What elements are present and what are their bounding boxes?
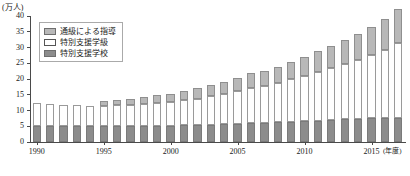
- bar-segment-1994-1: [86, 106, 94, 126]
- bar-2005: [233, 78, 241, 142]
- bar-segment-2015-1: [367, 55, 375, 118]
- bar-segment-1995-0: [100, 126, 108, 142]
- y-tick-mark: [27, 16, 31, 17]
- bar-segment-2014-0: [354, 119, 362, 142]
- bar-segment-1999-0: [153, 126, 161, 142]
- y-tick-mark: [27, 63, 31, 64]
- bar-segment-2000-0: [166, 126, 174, 142]
- bar-segment-1994-0: [86, 126, 94, 142]
- legend-item-tsukyu: 通級による指導: [44, 26, 116, 36]
- bar-segment-1998-1: [140, 104, 148, 126]
- bar-segment-1995-1: [100, 106, 108, 126]
- bar-2013: [341, 40, 349, 142]
- bar-segment-1991-1: [46, 104, 54, 126]
- bar-2000: [166, 94, 174, 143]
- x-tick-label-2000: 2000: [163, 147, 179, 156]
- bar-2007: [260, 71, 268, 142]
- bar-1996: [113, 100, 121, 142]
- y-tick-mark: [27, 142, 31, 143]
- bar-1991: [46, 104, 54, 142]
- bar-segment-2008-2: [274, 67, 282, 83]
- y-tick-mark: [27, 110, 31, 111]
- bar-segment-2003-0: [207, 125, 215, 142]
- x-tick-label-2005: 2005: [230, 147, 246, 156]
- bar-1992: [59, 105, 67, 142]
- legend-swatch-support-class: [44, 39, 56, 46]
- bar-2009: [287, 62, 295, 142]
- bar-segment-2000-2: [166, 94, 174, 103]
- bar-segment-2007-2: [260, 71, 268, 85]
- bar-segment-2001-1: [180, 100, 188, 125]
- x-axis-unit-label: (年度): [383, 147, 402, 156]
- bar-segment-2005-0: [233, 124, 241, 142]
- x-tick-label-1995: 1995: [96, 147, 112, 156]
- legend-swatch-support-school: [44, 50, 56, 57]
- x-tick-mark-2010: [305, 142, 306, 145]
- legend-item-support-school: 特別支援学校: [44, 48, 116, 58]
- bar-2002: [193, 88, 201, 142]
- bar-2012: [327, 46, 335, 142]
- bar-segment-2014-1: [354, 60, 362, 119]
- bar-segment-1997-1: [126, 105, 134, 126]
- y-tick-label: 10: [16, 106, 24, 115]
- bar-segment-2001-0: [180, 125, 188, 142]
- bar-1998: [140, 97, 148, 142]
- x-tick-mark-2015: [372, 142, 373, 145]
- x-axis-line: [30, 142, 406, 143]
- bar-2003: [207, 85, 215, 142]
- bar-2010: [300, 57, 308, 142]
- bar-segment-1996-0: [113, 126, 121, 142]
- bar-2006: [247, 73, 255, 142]
- bar-segment-2005-1: [233, 91, 241, 124]
- bar-segment-2012-2: [327, 46, 335, 68]
- bar-2008: [274, 67, 282, 142]
- bar-segment-2013-1: [341, 64, 349, 119]
- y-tick-mark: [27, 31, 31, 32]
- bar-segment-2002-1: [193, 99, 201, 125]
- bar-segment-1997-0: [126, 126, 134, 142]
- bar-segment-1998-0: [140, 126, 148, 142]
- bar-segment-2006-0: [247, 123, 255, 142]
- bar-segment-2012-0: [327, 120, 335, 142]
- bar-segment-2007-1: [260, 86, 268, 123]
- bar-2015: [367, 27, 375, 142]
- bar-segment-1999-2: [153, 95, 161, 103]
- legend-label-tsukyu: 通級による指導: [60, 27, 116, 36]
- bar-segment-1993-0: [73, 126, 81, 142]
- x-tick-label-1990: 1990: [29, 147, 45, 156]
- y-tick-label: 35: [16, 27, 24, 36]
- bar-segment-1990-1: [33, 103, 41, 126]
- x-tick-mark-2000: [171, 142, 172, 145]
- stacked-bar-chart: (万人) 0510152025303540 (年度) 通級による指導 特別支援学…: [0, 0, 410, 176]
- bar-1995: [100, 101, 108, 142]
- y-tick-mark: [27, 94, 31, 95]
- y-tick-mark: [27, 47, 31, 48]
- bar-1990: [33, 103, 41, 142]
- bar-segment-2016-1: [381, 50, 389, 118]
- bar-segment-1993-1: [73, 105, 81, 126]
- bar-segment-2006-2: [247, 73, 255, 87]
- bar-segment-2016-0: [381, 118, 389, 142]
- bar-segment-2003-1: [207, 96, 215, 124]
- y-tick-label: 40: [16, 11, 24, 20]
- bar-segment-2014-2: [354, 34, 362, 60]
- bar-segment-2004-0: [220, 124, 228, 142]
- bar-segment-2015-2: [367, 27, 375, 55]
- x-tick-mark-1995: [104, 142, 105, 145]
- y-tick-label: 30: [16, 43, 24, 52]
- bar-segment-2011-2: [314, 51, 322, 71]
- x-tick-mark-1990: [37, 142, 38, 145]
- bar-segment-2004-1: [220, 94, 228, 124]
- bar-segment-2000-1: [166, 102, 174, 126]
- y-tick-label: 25: [16, 58, 24, 67]
- bar-1994: [86, 106, 94, 142]
- bar-2014: [354, 34, 362, 142]
- bar-segment-2011-1: [314, 72, 322, 121]
- bar-segment-2008-1: [274, 83, 282, 122]
- bar-segment-2006-1: [247, 88, 255, 124]
- legend-label-support-class: 特別支援学級: [60, 38, 108, 47]
- y-tick-label: 0: [20, 137, 24, 146]
- x-tick-label-2015: 2015: [364, 147, 380, 156]
- bar-segment-2010-2: [300, 57, 308, 76]
- bar-1993: [73, 105, 81, 142]
